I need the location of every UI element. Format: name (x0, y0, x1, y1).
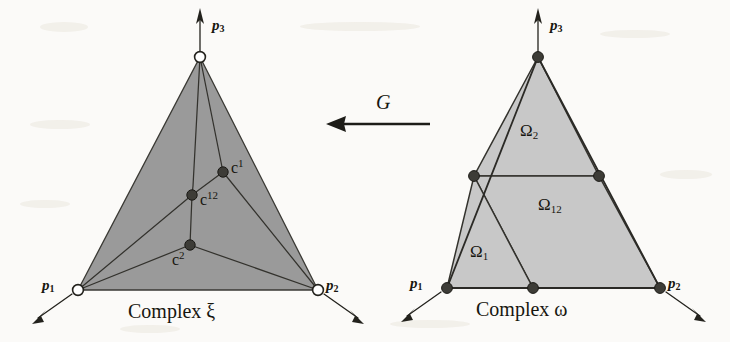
right-complex-omega-group (401, 8, 706, 322)
omega-1-label: Ω1 (470, 243, 488, 262)
xi-node-label-c2-sup: 2 (179, 249, 185, 261)
omega-node-marker-bottom-midpoint (528, 283, 539, 294)
omega-2-region (474, 57, 599, 176)
omega-vertex-label-p3: p3 (550, 18, 563, 34)
xi-arrow-shaft-p2 (324, 294, 358, 318)
omega-vertex-label-p3-base: p (550, 17, 558, 33)
xi-vertex-label-p1-base: p (42, 277, 50, 293)
left-complex-xi-group (32, 8, 364, 324)
omega-2-label-sub: 2 (533, 129, 539, 141)
xi-node-label-c2: c2 (172, 250, 185, 268)
omega-vertex-label-p2: p2 (668, 276, 681, 292)
omega-1-label-sub: 1 (483, 250, 489, 262)
diagram-svg (0, 0, 730, 342)
omega-vertex-label-p2-base: p (668, 275, 676, 291)
omega-vertex-label-p2-sub: 2 (676, 281, 681, 292)
xi-vertex-label-p3-base: p (212, 17, 220, 33)
omega-vertex-label-p1-base: p (410, 275, 418, 291)
omega-12-label-base: Ω (538, 195, 551, 214)
right-panel-caption: Complex ω (476, 299, 568, 319)
mapping-arrow-head (326, 116, 346, 132)
xi-node-marker-c1 (218, 167, 228, 177)
omega-1-label-base: Ω (470, 242, 483, 261)
omega-vertex-label-p1: p1 (410, 276, 423, 292)
xi-vertex-label-p2-base: p (326, 277, 334, 293)
xi-arrowhead-p2 (350, 310, 364, 324)
omega-arrow-shaft-p1 (407, 292, 441, 316)
omega-node-marker-right-midpoint (594, 171, 605, 182)
omega-2-label: Ω2 (520, 122, 538, 141)
xi-vertex-label-p2-sub: 2 (334, 283, 339, 294)
omega-vertex-label-p3-sub: 3 (558, 23, 563, 34)
xi-node-marker-c2 (185, 240, 195, 250)
omega-arrow-shaft-p2 (666, 292, 700, 316)
omega-vertex-label-p1-sub: 1 (418, 281, 423, 292)
xi-vertex-label-p1-sub: 1 (50, 283, 55, 294)
xi-vertex-marker-p1 (73, 285, 84, 296)
omega-vertex-marker-p1 (442, 283, 453, 294)
omega-2-label-base: Ω (520, 121, 533, 140)
xi-node-label-c1: c1 (231, 158, 244, 176)
xi-node-label-c12-sup: 12 (207, 189, 218, 201)
xi-vertex-label-p3: p3 (212, 18, 225, 34)
omega-12-label-sub: 12 (551, 203, 562, 215)
figure-canvas: G p3 p1 p2 c1 c12 c2 Complex ξ p3 p1 p2 … (0, 0, 730, 342)
xi-arrowhead-p1 (32, 310, 46, 324)
omega-vertex-marker-p3 (533, 52, 544, 63)
xi-vertex-label-p2: p2 (326, 278, 339, 294)
xi-node-label-c1-sup: 1 (238, 157, 244, 169)
mapping-arrow-group (326, 116, 430, 132)
xi-vertex-marker-p2 (313, 285, 324, 296)
omega-arrowhead-p2 (692, 308, 706, 322)
left-panel-caption: Complex ξ (128, 301, 215, 321)
xi-node-label-c12: c12 (200, 190, 218, 208)
omega-node-marker-left-midpoint (469, 171, 480, 182)
omega-arrowhead-p1 (401, 308, 415, 322)
omega-vertex-marker-p2 (655, 283, 666, 294)
xi-arrow-shaft-p1 (38, 294, 72, 318)
xi-vertex-marker-p3 (195, 52, 206, 63)
mapping-arrow-label: G (376, 92, 390, 112)
xi-vertex-label-p1: p1 (42, 278, 55, 294)
xi-vertex-label-p3-sub: 3 (220, 23, 225, 34)
omega-12-label: Ω12 (538, 196, 562, 215)
xi-node-marker-c12 (187, 190, 197, 200)
